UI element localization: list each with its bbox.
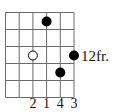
dot-string4-fret1 bbox=[42, 17, 52, 27]
finger-label-string3: 2 bbox=[29, 96, 36, 112]
dot-string5-fret4 bbox=[55, 68, 65, 78]
fingering-row: 2 1 4 3 bbox=[0, 96, 118, 112]
fret-position-label: 12fr. bbox=[81, 47, 109, 65]
grid-lines bbox=[6, 13, 75, 98]
finger-label-string5: 4 bbox=[57, 96, 64, 112]
finger-label-string6: 3 bbox=[71, 96, 78, 112]
finger-label-string4: 1 bbox=[43, 96, 50, 112]
dot-string6-fret3 bbox=[69, 51, 79, 61]
open-dot-string3-fret3 bbox=[28, 51, 37, 60]
